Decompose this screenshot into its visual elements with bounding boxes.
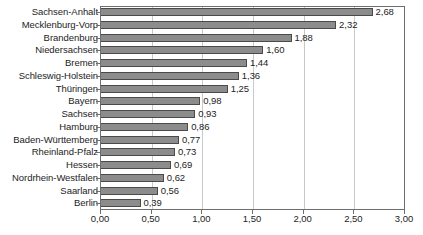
x-axis-tick-label: 3,00: [395, 213, 413, 225]
bar: [101, 97, 200, 105]
bar-value-label: 0,69: [174, 159, 192, 172]
bar-value-label: 2,32: [339, 19, 357, 32]
bar: [101, 59, 247, 67]
x-axis-tick-label: 0,50: [142, 213, 160, 225]
bar: [101, 174, 164, 182]
bar: [101, 148, 175, 156]
y-axis-tick: [96, 50, 100, 51]
bar: [101, 187, 158, 195]
x-axis-tick-label: 0,00: [91, 213, 109, 225]
bar: [101, 123, 188, 131]
bar-row: Brandenburg1,88: [0, 32, 423, 45]
category-label: Bremen: [65, 57, 98, 70]
category-label: Bayern: [68, 95, 98, 108]
category-label: Saarland: [60, 185, 98, 198]
bar-value-label: 0,98: [203, 95, 221, 108]
bar-row: Mecklenburg-Vorp2,32: [0, 19, 423, 32]
bar: [101, 110, 195, 118]
bar-chart: Sachsen-Anhalt2,68Mecklenburg-Vorp2,32Br…: [0, 0, 423, 235]
bar: [101, 8, 373, 16]
bar-value-label: 0,73: [178, 146, 196, 159]
y-axis-tick: [96, 76, 100, 77]
bar-value-label: 0,77: [182, 134, 200, 147]
bar-value-label: 0,86: [191, 121, 209, 134]
y-axis-tick: [96, 89, 100, 90]
category-label: Sachsen: [61, 108, 98, 121]
category-label: Nordrhein-Westfalen: [12, 172, 98, 185]
y-axis-tick: [96, 63, 100, 64]
bar-value-label: 0,39: [144, 197, 162, 210]
bar: [101, 136, 179, 144]
bar-row: Schleswig-Holstein1,36: [0, 70, 423, 83]
bar: [101, 46, 263, 54]
bar-value-label: 2,68: [376, 6, 394, 19]
y-axis-tick: [96, 140, 100, 141]
y-axis-tick: [96, 12, 100, 13]
category-label: Berlin: [74, 197, 98, 210]
x-axis-tick-label: 1,00: [192, 213, 210, 225]
y-axis-tick: [96, 203, 100, 204]
y-axis-tick: [96, 101, 100, 102]
x-axis-tick-label: 1,50: [243, 213, 261, 225]
bar-row: Hamburg0,86: [0, 121, 423, 134]
category-label: Brandenburg: [44, 32, 98, 45]
category-label: Mecklenburg-Vorp: [22, 19, 98, 32]
bar-row: Thüringen1,25: [0, 83, 423, 96]
y-axis-tick: [96, 152, 100, 153]
category-label: Thüringen: [56, 83, 98, 96]
bar: [101, 21, 336, 29]
category-label: Baden-Württemberg: [13, 134, 98, 147]
bar-row: Baden-Württemberg0,77: [0, 134, 423, 147]
bar: [101, 72, 239, 80]
x-axis-tick-label: 2,00: [294, 213, 312, 225]
category-label: Hessen: [66, 159, 98, 172]
bar-row: Niedersachsen1,60: [0, 44, 423, 57]
y-axis-tick: [96, 191, 100, 192]
category-label: Sachsen-Anhalt: [32, 6, 98, 19]
bar-value-label: 0,93: [198, 108, 216, 121]
bar-row: Rheinland-Pfalz0,73: [0, 146, 423, 159]
bar-row: Sachsen0,93: [0, 108, 423, 121]
y-axis-tick: [96, 114, 100, 115]
bar-value-label: 1,25: [231, 83, 249, 96]
category-label: Hamburg: [59, 121, 98, 134]
bar-row: Saarland0,56: [0, 185, 423, 198]
bar: [101, 199, 141, 207]
category-label: Rheinland-Pfalz: [32, 146, 98, 159]
y-axis-tick: [96, 38, 100, 39]
y-axis-tick: [96, 127, 100, 128]
bar-value-label: 1,36: [242, 70, 260, 83]
category-label: Niedersachsen: [35, 44, 98, 57]
bar-value-label: 1,88: [295, 32, 313, 45]
bar-value-label: 1,60: [266, 44, 284, 57]
bar-row: Bremen1,44: [0, 57, 423, 70]
y-axis-tick: [96, 178, 100, 179]
bar: [101, 34, 292, 42]
bar-value-label: 0,62: [167, 172, 185, 185]
bar-row: Sachsen-Anhalt2,68: [0, 6, 423, 19]
bar-value-label: 0,56: [161, 185, 179, 198]
bar: [101, 85, 228, 93]
bar-row: Nordrhein-Westfalen0,62: [0, 172, 423, 185]
bar-row: Hessen0,69: [0, 159, 423, 172]
x-axis-tick-label: 2,50: [344, 213, 362, 225]
y-axis-tick: [96, 25, 100, 26]
bar-row: Berlin0,39: [0, 197, 423, 210]
y-axis-tick: [96, 165, 100, 166]
bar: [101, 161, 171, 169]
bar-value-label: 1,44: [250, 57, 268, 70]
category-label: Schleswig-Holstein: [19, 70, 98, 83]
bar-rows: Sachsen-Anhalt2,68Mecklenburg-Vorp2,32Br…: [0, 6, 423, 210]
bar-row: Bayern0,98: [0, 95, 423, 108]
